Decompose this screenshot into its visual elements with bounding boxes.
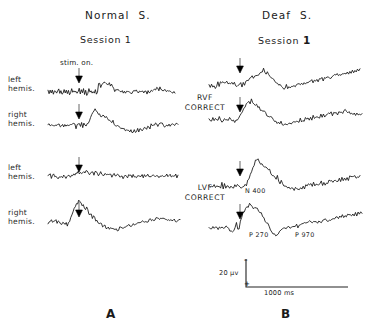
trace-normal-lvf-left xyxy=(48,171,178,179)
trace-deaf-rvf-right xyxy=(209,99,362,125)
trace-normal-lvf-right xyxy=(48,200,180,231)
trace-deaf-lvf-left xyxy=(209,159,360,191)
arrow-normal-rvf-left xyxy=(76,68,83,83)
eeg-traces xyxy=(48,68,362,236)
arrow-normal-rvf-right xyxy=(76,104,83,119)
scale-bar xyxy=(246,259,348,287)
trace-normal-rvf-right xyxy=(48,109,178,133)
arrow-deaf-rvf-right xyxy=(237,97,244,112)
erp-figure: Normal S. Deaf S. Session 1 Session 1 st… xyxy=(0,0,366,330)
waveform-layer xyxy=(0,0,366,330)
trace-deaf-rvf-left xyxy=(209,68,360,89)
arrow-normal-lvf-left xyxy=(76,157,83,172)
arrow-deaf-lvf-right xyxy=(237,204,244,219)
arrow-deaf-rvf-left xyxy=(237,58,244,73)
trace-normal-rvf-left xyxy=(48,82,175,95)
trace-deaf-lvf-right xyxy=(209,203,362,236)
arrow-deaf-lvf-left xyxy=(237,161,244,176)
